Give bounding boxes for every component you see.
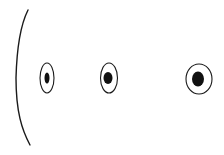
inner-dot <box>104 72 113 84</box>
diagram-svg <box>0 0 224 155</box>
diagram-canvas <box>0 0 224 155</box>
ellipse-group <box>40 63 212 94</box>
ellipse-small <box>40 63 54 93</box>
ellipse-medium <box>101 63 118 93</box>
curved-boundary-arc <box>16 10 30 145</box>
inner-dot <box>192 72 204 87</box>
inner-dot <box>45 73 50 84</box>
ellipse-large <box>186 64 212 94</box>
